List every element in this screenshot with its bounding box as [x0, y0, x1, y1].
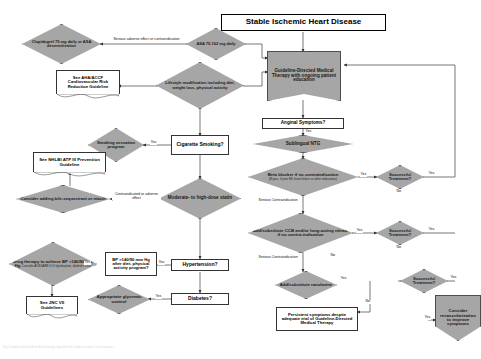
edge-label-serious-contraindication-1: Serious Contraindication [258, 199, 298, 203]
edge-label-yes-bp2: Yes [84, 261, 91, 265]
node-nhlbi-guideline[interactable]: See NHLBI ATP III Prevention Guideline [33, 152, 106, 172]
edge-label-yes-successful-3: Yes [450, 276, 457, 280]
edge-label-yes-revascularization: Yes [424, 316, 431, 320]
edge-label-yes-ranolazine: Yes [340, 277, 347, 281]
edge-label-no-successful-2: No [396, 246, 402, 250]
edge-label-no-successful-1: No [396, 190, 402, 194]
drug-therapy-note: Consider ACEI/ARB if LV dysfunction, dia… [22, 264, 92, 268]
edge-label-yes-successful-1: Yes [428, 172, 435, 176]
node-anginal-symptoms[interactable]: Anginal Symptoms? [262, 118, 344, 129]
page-title: Stable Ischemic Heart Disease [221, 14, 386, 31]
node-persistent-symptoms[interactable]: Persistent symptoms despite adequate tri… [276, 307, 358, 331]
node-bp-check[interactable]: BP >140/90 mm Hg after diet, physical ac… [105, 252, 157, 276]
edge-label-yes-cigarette: Yes [150, 141, 157, 145]
edge-label-contraindicated: Contraindicated or adverse effect [112, 193, 161, 200]
node-gdmt[interactable]: Guideline-Directed Medical Therapy with … [267, 51, 341, 101]
node-hypertension[interactable]: Hypertension? [171, 259, 229, 271]
beta-blocker-main: Beta blocker if no contraindication [268, 172, 339, 177]
edge-label-yes-ccb: Yes [356, 229, 363, 233]
document-wave [34, 172, 105, 179]
beta-blocker-note: (Espec. if prior MI, heart failure or ot… [269, 177, 337, 181]
flowchart-canvas: Stable Ischemic Heart Disease Clopidogre… [0, 0, 481, 359]
edge-label-no-ccb: No [330, 254, 336, 258]
edge-label-yes-beta-blocker: Yes [360, 173, 367, 177]
edge-label-serious-contraindication-2: Serious Contraindication [258, 256, 298, 260]
edge-label-yes-anginal: Yes [305, 130, 312, 134]
node-aha-accf-guideline[interactable]: See AHA/ACCF Cardiovascular Risk Reducti… [56, 70, 120, 94]
edge-label-yes-diabetes: Yes [155, 295, 162, 299]
node-diabetes[interactable]: Diabetes? [171, 293, 229, 305]
edge-label-yes-bp: Yes [158, 261, 165, 265]
edge-label-yes-successful-2: Yes [428, 228, 435, 232]
node-cigarette-smoking[interactable]: Cigarette Smoking? [171, 135, 229, 155]
document-wave [57, 94, 119, 101]
document-wave [27, 314, 77, 321]
edge-label-no-successful-3: No [365, 300, 371, 304]
figure-caption: Fig. Guideline-directed medical therapy … [3, 346, 303, 350]
node-jnc-vii-guidelines[interactable]: See JNC VII Guidelines [26, 296, 78, 314]
edge-label-serious-adverse: Serious adverse effect or contraindicati… [108, 38, 185, 42]
